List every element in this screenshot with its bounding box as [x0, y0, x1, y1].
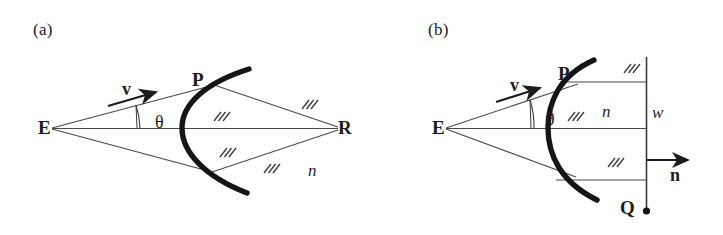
- panel-b-label-region-n: n: [602, 103, 611, 120]
- panel-a-label-E: E: [38, 118, 51, 137]
- panel-a-label-theta: θ: [155, 113, 164, 131]
- panel-b-wavefront-curve: [548, 60, 597, 200]
- panel-b-ray-e-lower: [446, 129, 576, 177]
- panel-a-hatch-mark-3: [302, 100, 318, 109]
- panel-a-label-velocity: v: [122, 80, 131, 98]
- panel-a-label-R: R: [338, 118, 352, 137]
- panel-b-label-w: w: [652, 104, 663, 121]
- panel-b-label-E: E: [432, 118, 445, 137]
- panel-a-tag: (a): [33, 21, 53, 38]
- panel-a-velocity-arrow: [108, 92, 156, 106]
- panel-b-label-normal-vector: n: [670, 166, 680, 184]
- panel-b-hatch-mark-2: [568, 112, 584, 121]
- panel-a-hatch-mark-1: [214, 112, 230, 121]
- panel-a-label-P: P: [192, 70, 204, 89]
- figure-canvas: [0, 0, 723, 235]
- panel-b-q-dot: [643, 207, 650, 214]
- panel-b-label-velocity: v: [510, 76, 519, 94]
- figure-root: (a) E R P v θ n (b) E P v θ n w n Q: [0, 0, 723, 235]
- panel-b-hatch-mark-1: [624, 64, 640, 73]
- panel-b-label-Q: Q: [620, 198, 635, 217]
- panel-a-hatch-mark-2: [220, 148, 236, 157]
- panel-a-label-n: n: [308, 162, 317, 179]
- panel-a-ray-p-to-r: [214, 85, 338, 127]
- panel-b-tag: (b): [428, 21, 449, 38]
- panel-b-hatch-mark-3: [608, 158, 624, 167]
- panel-b-label-theta: θ: [546, 110, 555, 128]
- panel-a-hatch-mark-4: [264, 164, 280, 173]
- panel-b-label-P: P: [558, 64, 570, 83]
